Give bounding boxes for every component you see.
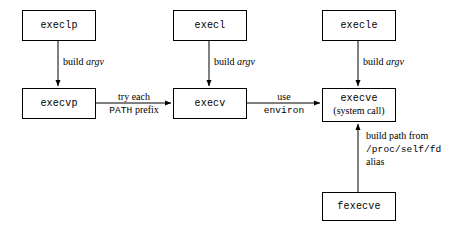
- node-execv-label: execv: [194, 98, 225, 110]
- edge-label-line: PATH prefix: [98, 104, 170, 118]
- edge-label-execvp-to-execv: try eachPATH prefix: [98, 91, 170, 117]
- node-execl[interactable]: execl: [173, 10, 247, 41]
- edge-label-execle-to-execve: build argv: [363, 56, 404, 69]
- edge-label-line: environ: [250, 104, 318, 118]
- edge-label-execl-to-execv: build argv: [214, 56, 255, 69]
- edge-label-line: try each: [98, 91, 170, 104]
- node-fexecve-label: fexecve: [337, 201, 380, 213]
- diagram-canvas: execlp execl execle execvp execv execve …: [0, 0, 461, 233]
- node-execle-label: execle: [340, 20, 377, 32]
- edge-label-line: use: [250, 91, 318, 104]
- node-execve-sublabel: (system call): [333, 105, 384, 117]
- edge-label-line: alias: [366, 156, 441, 169]
- node-execvp[interactable]: execvp: [22, 88, 96, 119]
- node-execl-label: execl: [194, 20, 225, 32]
- node-execlp-label: execlp: [40, 20, 77, 32]
- edge-label-line: build path from: [366, 130, 441, 143]
- node-execlp[interactable]: execlp: [22, 10, 96, 41]
- node-execve[interactable]: execve (system call): [322, 88, 396, 122]
- edge-label-line: build argv: [363, 56, 404, 69]
- node-execvp-label: execvp: [40, 98, 77, 110]
- edge-label-execlp-to-execvp: build argv: [63, 56, 104, 69]
- edge-label-line: build argv: [63, 56, 104, 69]
- edge-label-fexecve-to-execve: build path from/proc/self/fdalias: [366, 130, 441, 169]
- node-fexecve[interactable]: fexecve: [322, 192, 396, 221]
- node-execve-label: execve: [340, 93, 377, 105]
- node-execv[interactable]: execv: [173, 88, 247, 119]
- edge-label-line: build argv: [214, 56, 255, 69]
- edge-label-execv-to-execve: useenviron: [250, 91, 318, 117]
- node-execle[interactable]: execle: [322, 10, 396, 41]
- edge-label-line: /proc/self/fd: [366, 143, 441, 157]
